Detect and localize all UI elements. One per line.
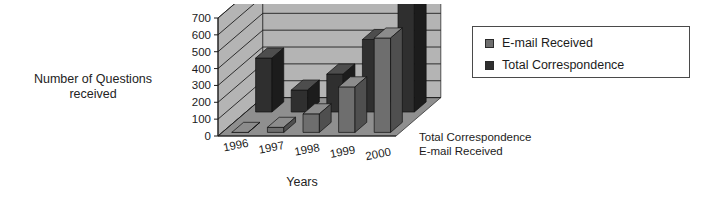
legend-label-total-correspondence: Total Correspondence [502, 58, 624, 72]
y-axis-title: Number of Questions received [4, 72, 182, 102]
svg-text:300: 300 [192, 79, 211, 91]
svg-text:2000: 2000 [364, 146, 391, 163]
y-axis-title-line1: Number of Questions [4, 72, 182, 87]
chart-canvas: 0100200300400500600700199619971998199920… [186, 4, 446, 164]
x-axis-title: Years [252, 175, 352, 189]
svg-text:0: 0 [205, 130, 211, 142]
series-axis-label-total: Total Correspondence [419, 131, 532, 145]
legend-item-total-correspondence[interactable]: Total Correspondence [485, 54, 689, 76]
svg-text:600: 600 [192, 29, 211, 41]
legend-item-email-received[interactable]: E-mail Received [485, 32, 689, 54]
svg-text:500: 500 [192, 46, 211, 58]
svg-text:700: 700 [192, 12, 211, 24]
legend-label-email-received: E-mail Received [502, 36, 593, 50]
bar-chart-3d: 0100200300400500600700199619971998199920… [186, 4, 446, 164]
y-axis-title-line2: received [4, 87, 182, 102]
series-axis-label-email: E-mail Received [419, 145, 532, 159]
svg-text:1996: 1996 [222, 137, 249, 154]
svg-text:100: 100 [192, 113, 211, 125]
svg-text:1997: 1997 [258, 139, 285, 156]
svg-text:1998: 1998 [293, 141, 320, 158]
legend-swatch-total-correspondence [485, 61, 494, 70]
legend-swatch-email-received [485, 39, 494, 48]
svg-text:1999: 1999 [329, 143, 356, 160]
svg-text:400: 400 [192, 63, 211, 75]
chart-page: Number of Questions received 01002003004… [0, 0, 709, 200]
svg-text:200: 200 [192, 96, 211, 108]
chart-legend: E-mail Received Total Correspondence [472, 26, 690, 78]
series-axis-labels: Total Correspondence E-mail Received [419, 131, 532, 158]
